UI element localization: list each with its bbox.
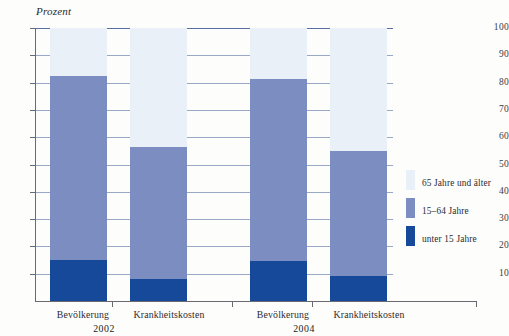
segment-15-64-jahre (250, 79, 307, 262)
legend-label-young: unter 15 Jahre (422, 234, 477, 244)
segment-unter-15-jahre (250, 261, 307, 301)
segment-65-und-aelter (50, 28, 107, 76)
y-tick-label-100: 100 (483, 22, 509, 32)
group-label-2002: 2002 (74, 323, 134, 334)
segment-65-und-aelter (250, 28, 307, 79)
legend-swatch-young (406, 226, 415, 246)
group-label-2004: 2004 (274, 323, 334, 334)
chart-container: Prozent 102030405060708090100 Bevölkerun… (0, 0, 509, 336)
x-axis-line (35, 301, 476, 302)
x-separator-tick-4 (476, 301, 477, 307)
bar-2002-bevoelkerung[interactable] (50, 28, 107, 301)
x-separator-tick-2 (232, 301, 233, 307)
bar-2004-krankheitskosten[interactable] (330, 28, 387, 301)
y-tick-label-50: 50 (483, 159, 509, 169)
segment-15-64-jahre (130, 147, 187, 279)
y-tick-label-70: 70 (483, 104, 509, 114)
legend-item-old[interactable]: 65 Jahre und älter (406, 170, 506, 198)
x-separator-tick-3 (312, 301, 313, 307)
y-tick-label-80: 80 (483, 77, 509, 87)
legend-item-young[interactable]: unter 15 Jahre (406, 226, 506, 254)
y-tick-label-90: 90 (483, 49, 509, 59)
x-separator-tick-1 (112, 301, 113, 307)
segment-unter-15-jahre (130, 279, 187, 301)
segment-unter-15-jahre (330, 276, 387, 301)
legend-swatch-mid (406, 198, 415, 218)
legend-label-old: 65 Jahre und älter (422, 178, 491, 188)
segment-65-und-aelter (330, 28, 387, 151)
x-label-2: Krankheitskosten (113, 309, 225, 320)
y-tick-label-10: 10 (483, 268, 509, 278)
legend-item-mid[interactable]: 15–64 Jahre (406, 198, 506, 226)
y-tick-label-60: 60 (483, 131, 509, 141)
segment-15-64-jahre (330, 151, 387, 277)
plot-area (36, 28, 393, 301)
bar-2002-krankheitskosten[interactable] (130, 28, 187, 301)
legend-label-mid: 15–64 Jahre (422, 206, 469, 216)
bar-2004-bevoelkerung[interactable] (250, 28, 307, 301)
legend-swatch-old (406, 170, 415, 190)
y-axis-unit-label: Prozent (36, 5, 71, 17)
segment-15-64-jahre (50, 76, 107, 260)
x-label-4: Krankheitskosten (313, 309, 425, 320)
legend: 65 Jahre und älter15–64 Jahreunter 15 Ja… (406, 170, 506, 254)
segment-unter-15-jahre (50, 260, 107, 301)
segment-65-und-aelter (130, 28, 187, 147)
